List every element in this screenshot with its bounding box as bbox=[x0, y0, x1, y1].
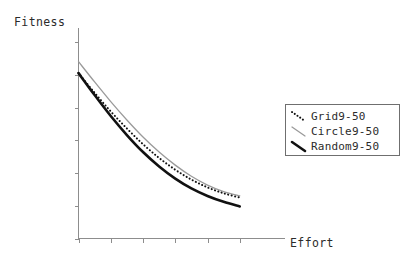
series-group bbox=[79, 62, 240, 207]
axis-group bbox=[79, 28, 286, 239]
legend-label-random9-50: Random9-50 bbox=[311, 140, 379, 153]
legend-label-circle9-50: Circle9-50 bbox=[311, 125, 379, 138]
x-axis-label: Effort bbox=[290, 236, 334, 250]
legend: Grid9-50Circle9-50Random9-50 bbox=[286, 105, 400, 156]
series-line-random9-50 bbox=[79, 73, 240, 206]
chart-page: Fitness Effort Grid9-50Circle9-50Random9… bbox=[0, 0, 408, 265]
legend-label-grid9-50: Grid9-50 bbox=[311, 110, 366, 123]
series-line-circle9-50 bbox=[79, 62, 240, 196]
fitness-effort-line-chart: Fitness Effort Grid9-50Circle9-50Random9… bbox=[0, 0, 408, 265]
y-axis-label: Fitness bbox=[14, 15, 65, 29]
x-axis-ticks bbox=[80, 239, 241, 243]
